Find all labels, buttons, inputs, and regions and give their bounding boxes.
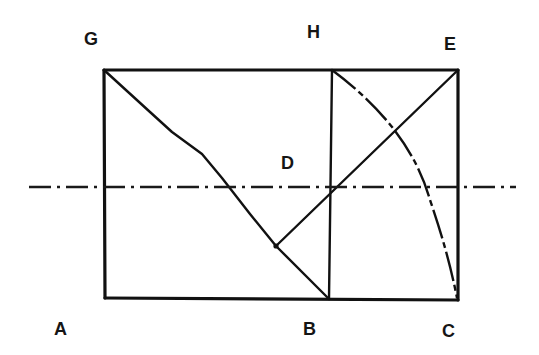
label-A: A [54, 319, 67, 339]
label-G: G [84, 29, 98, 49]
diagonal-G-to-B [104, 70, 329, 299]
label-D: D [281, 153, 294, 173]
divider-HB [329, 70, 332, 299]
outer-rectangle [104, 70, 458, 300]
geometric-construction-diagram: G H E D A B C [0, 0, 539, 355]
kink-point-marker [273, 243, 278, 248]
label-C: C [442, 321, 455, 341]
label-E: E [444, 34, 456, 54]
label-B: B [303, 319, 316, 339]
edge-AC [105, 298, 458, 300]
diagonal-kink-to-E [276, 70, 458, 246]
label-H: H [307, 22, 320, 42]
edge-GA [104, 70, 105, 298]
arc-H-to-C [332, 70, 457, 298]
